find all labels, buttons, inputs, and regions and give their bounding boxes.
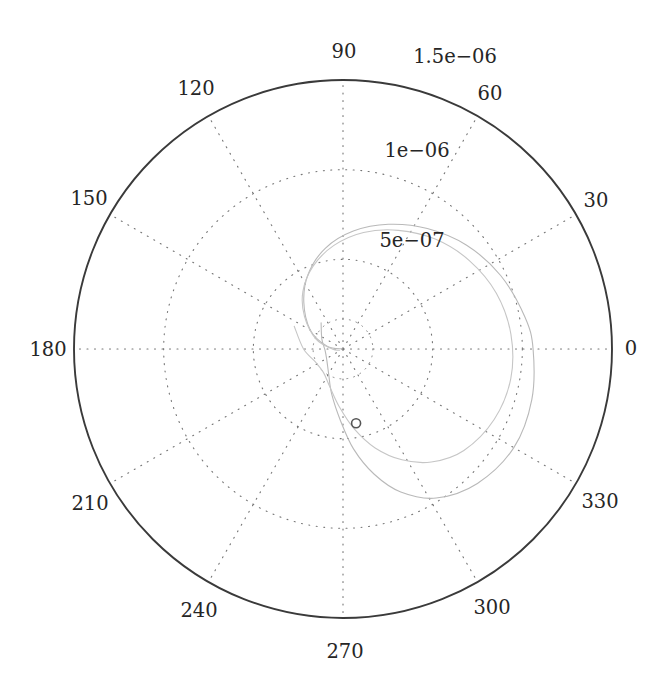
angle-tick-270: 270 — [326, 642, 363, 662]
series-outer-spiral — [304, 224, 534, 498]
angle-tick-150: 150 — [70, 189, 107, 209]
polar-plot-canvas — [0, 0, 672, 697]
angle-tick-210: 210 — [71, 494, 108, 514]
angle-tick-60: 60 — [478, 84, 503, 104]
angle-tick-180: 180 — [29, 340, 66, 360]
polar-figure: 0 30 60 90 120 150 180 210 240 270 300 3… — [0, 0, 672, 697]
angle-tick-90: 90 — [332, 42, 357, 62]
radial-tick-1e-06: 1e−06 — [384, 141, 449, 161]
polar-series — [294, 224, 534, 498]
angle-tick-300: 300 — [473, 598, 510, 618]
angle-tick-240: 240 — [180, 601, 217, 621]
radial-tick-5e-07: 5e−07 — [379, 231, 444, 251]
angle-tick-0: 0 — [625, 339, 637, 359]
angle-tick-30: 30 — [584, 191, 609, 211]
polar-markers — [352, 419, 361, 428]
radial-tick-1.5e-06: 1.5e−06 — [413, 47, 497, 67]
angle-tick-330: 330 — [581, 492, 618, 512]
open-circle-marker — [352, 419, 361, 428]
angle-tick-120: 120 — [177, 79, 214, 99]
